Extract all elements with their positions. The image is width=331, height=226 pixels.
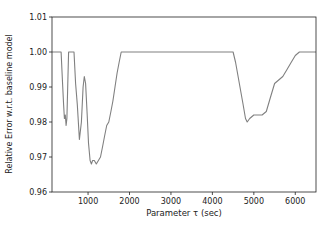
x-tick-label: 2000	[119, 197, 139, 206]
plot-area	[52, 52, 316, 164]
x-tick-label: 5000	[244, 197, 264, 206]
x-axis-ticks: 100020003000400050006000	[78, 192, 306, 206]
y-tick-label: 0.98	[29, 118, 47, 127]
x-tick-label: 3000	[161, 197, 181, 206]
series-line	[52, 52, 316, 164]
line-chart: 100020003000400050006000 0.960.970.980.9…	[0, 0, 331, 226]
y-tick-label: 0.99	[29, 83, 47, 92]
y-tick-label: 0.96	[29, 188, 47, 197]
y-axis-ticks: 0.960.970.980.991.001.01	[29, 13, 52, 197]
axes-frame	[52, 17, 316, 192]
y-axis-label: Relative Error w.r.t. baseline model	[5, 34, 14, 173]
y-tick-label: 0.97	[29, 153, 47, 162]
y-tick-label: 1.01	[29, 13, 47, 22]
x-tick-label: 6000	[285, 197, 305, 206]
x-tick-label: 4000	[202, 197, 222, 206]
x-axis-label: Parameter τ (sec)	[146, 208, 222, 218]
y-tick-label: 1.00	[29, 48, 47, 57]
x-tick-label: 1000	[78, 197, 98, 206]
axes	[52, 17, 316, 192]
